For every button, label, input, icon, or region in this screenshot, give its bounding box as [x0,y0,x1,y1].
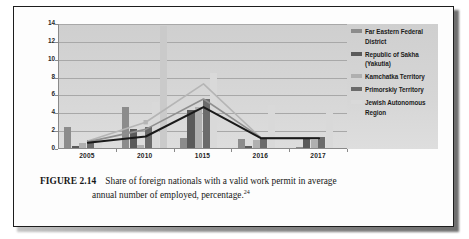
y-tick-label: 12 [33,38,55,44]
y-tick: 10 [27,56,55,64]
x-axis-line [58,148,347,149]
legend-swatch [351,87,362,91]
y-tick-label: 6 [33,91,55,97]
figure-frame: 02468101214 20052010101520162017 Far Eas… [13,6,454,227]
x-tick-label: 2010 [125,152,165,159]
y-tick-label: 14 [33,20,55,26]
data-point-marker [144,120,148,124]
legend-item[interactable]: Primorskiy Territory [351,85,439,95]
y-tick: 14 [27,20,55,28]
figure-label: FIGURE 2.14 [40,176,96,186]
x-tick-mark [231,149,232,152]
legend-swatch [351,74,362,78]
y-tick: 8 [27,74,55,82]
caption-text-line2: annual number of employed, percentage.24 [92,189,455,203]
trend-line [88,107,319,143]
y-tick-label: 4 [33,109,55,115]
legend-item[interactable]: Jewish AutonomousRegion [351,98,439,117]
y-tick: 12 [27,38,55,46]
footnote-marker: 24 [244,188,250,194]
x-tick-label: 1015 [183,152,223,159]
y-tick-label: 0 [33,145,55,151]
caption-text-line1: Share of foreign nationals with a valid … [105,176,336,186]
legend-swatch [351,52,362,56]
trend-lines-layer [59,24,347,148]
y-tick: 6 [27,91,55,99]
legend-label: Far Eastern FederalDistrict [365,27,423,46]
figure-caption: FIGURE 2.14Share of foreign nationals wi… [40,175,455,202]
y-tick-mark [55,149,58,150]
legend-swatch [351,29,362,33]
legend-label: Jewish AutonomousRegion [365,98,426,117]
legend-item[interactable]: Republic of Sakha(Yakutia) [351,50,439,69]
x-tick-mark [116,149,117,152]
y-tick: 4 [27,109,55,117]
chart-area: 02468101214 20052010101520162017 Far Eas… [27,15,439,167]
x-tick-mark [347,149,348,152]
legend-item[interactable]: Far Eastern FederalDistrict [351,27,439,46]
x-tick-label: 2016 [240,152,280,159]
y-tick-label: 8 [33,74,55,80]
legend-swatch [351,100,362,104]
legend-label: Primorskiy Territory [365,85,424,95]
x-tick-mark [289,149,290,152]
y-tick-label: 2 [33,127,55,133]
legend-label-line2: (Yakutia) [365,60,391,67]
legend-label: Kamchatka Territory [365,72,425,82]
y-tick-label: 10 [33,56,55,62]
legend-item[interactable]: Kamchatka Territory [351,72,439,82]
legend-label-line2: District [365,38,386,45]
y-tick: 2 [27,127,55,135]
trend-line [88,99,319,142]
y-tick: 0 [27,145,55,153]
figure-page: 02468101214 20052010101520162017 Far Eas… [0,0,469,239]
chart-legend: Far Eastern FederalDistrictRepublic of S… [351,27,439,121]
trend-line [88,84,319,141]
x-tick-label: 2017 [298,152,338,159]
x-tick-mark [174,149,175,152]
legend-label-line2: Region [365,109,386,116]
legend-label: Republic of Sakha(Yakutia) [365,50,419,69]
x-tick-label: 2005 [67,152,107,159]
